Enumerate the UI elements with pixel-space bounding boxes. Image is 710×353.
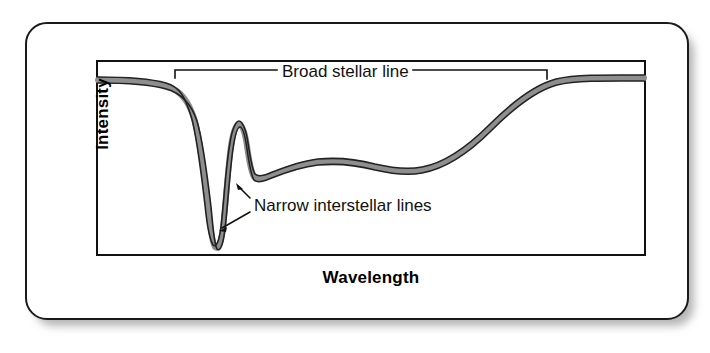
figure-container: Intensity Wavelength Broad stellar line … [0,0,710,353]
y-axis-label: Intensity [93,59,113,169]
annotation-broad-stellar-line: Broad stellar line [282,62,409,82]
plot-frame [96,60,646,256]
annotation-narrow-interstellar-lines: Narrow interstellar lines [254,196,432,216]
x-axis-label: Wavelength [96,268,646,288]
